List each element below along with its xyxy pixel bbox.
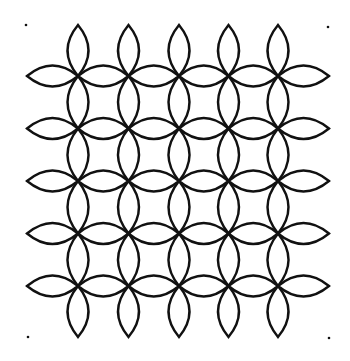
petal-vertical-outer bbox=[218, 286, 239, 337]
corner-dot bbox=[327, 26, 330, 29]
petal-grid-drawing bbox=[0, 0, 350, 361]
petal-horizontal bbox=[78, 223, 129, 244]
petal-vertical bbox=[218, 181, 239, 234]
petal-vertical-outer bbox=[68, 286, 89, 337]
petal-horizontal bbox=[179, 276, 229, 297]
petal-vertical bbox=[218, 76, 239, 129]
petal-horizontal bbox=[129, 223, 180, 244]
petal-pattern-artwork bbox=[0, 0, 350, 361]
petal-horizontal-outer bbox=[27, 118, 78, 139]
petal-horizontal-outer bbox=[278, 171, 329, 192]
petal-vertical bbox=[268, 76, 289, 129]
petal-horizontal bbox=[78, 66, 129, 87]
petal-vertical bbox=[68, 234, 89, 287]
petal-horizontal-outer bbox=[278, 118, 329, 139]
petal-vertical-outer bbox=[268, 286, 289, 337]
petal-horizontal bbox=[179, 171, 229, 192]
petal-vertical bbox=[68, 129, 89, 182]
petal-horizontal-outer bbox=[27, 66, 78, 87]
petal-vertical bbox=[218, 234, 239, 287]
petal-horizontal bbox=[229, 276, 279, 297]
petal-lenses bbox=[27, 25, 329, 337]
petal-vertical bbox=[268, 129, 289, 182]
petal-vertical-outer bbox=[169, 286, 190, 337]
petal-horizontal bbox=[129, 118, 180, 139]
petal-horizontal bbox=[229, 66, 279, 87]
petal-vertical bbox=[169, 76, 190, 129]
petal-vertical bbox=[68, 76, 89, 129]
petal-horizontal-outer bbox=[27, 223, 78, 244]
petal-horizontal-outer bbox=[27, 276, 78, 297]
petal-horizontal bbox=[78, 276, 129, 297]
petal-vertical bbox=[169, 129, 190, 182]
petal-vertical bbox=[68, 181, 89, 234]
petal-horizontal bbox=[229, 118, 279, 139]
petal-horizontal bbox=[179, 223, 229, 244]
petal-vertical-outer bbox=[169, 25, 190, 76]
petal-vertical-outer bbox=[118, 25, 139, 76]
corner-dot bbox=[25, 24, 28, 27]
petal-vertical bbox=[118, 234, 139, 287]
petal-vertical-outer bbox=[218, 25, 239, 76]
petal-horizontal bbox=[179, 118, 229, 139]
petal-horizontal bbox=[78, 171, 129, 192]
corner-dot bbox=[328, 337, 331, 340]
petal-horizontal-outer bbox=[278, 276, 329, 297]
petal-horizontal bbox=[78, 118, 129, 139]
petal-horizontal-outer bbox=[27, 171, 78, 192]
petal-vertical bbox=[118, 76, 139, 129]
petal-vertical bbox=[118, 129, 139, 182]
corner-dot bbox=[27, 336, 30, 339]
petal-vertical bbox=[169, 181, 190, 234]
petal-vertical bbox=[169, 234, 190, 287]
petal-vertical bbox=[218, 129, 239, 182]
petal-horizontal bbox=[229, 223, 279, 244]
petal-horizontal bbox=[129, 171, 180, 192]
petal-horizontal-outer bbox=[278, 66, 329, 87]
petal-horizontal bbox=[129, 276, 180, 297]
petal-vertical bbox=[268, 234, 289, 287]
petal-horizontal-outer bbox=[278, 223, 329, 244]
petal-vertical-outer bbox=[68, 25, 89, 76]
petal-vertical-outer bbox=[118, 286, 139, 337]
petal-vertical bbox=[268, 181, 289, 234]
petal-horizontal bbox=[179, 66, 229, 87]
petal-horizontal bbox=[229, 171, 279, 192]
petal-vertical bbox=[118, 181, 139, 234]
petal-vertical-outer bbox=[268, 25, 289, 76]
petal-horizontal bbox=[129, 66, 180, 87]
